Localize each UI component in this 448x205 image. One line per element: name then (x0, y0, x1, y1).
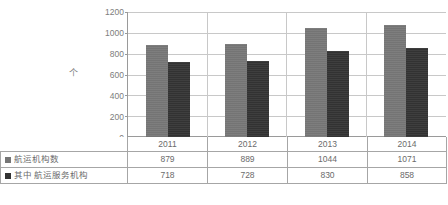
table-row-series2: 其中 航运服务机构 718 728 830 858 (1, 168, 447, 184)
y-axis-tick-labels: 1200 1000 800 600 400 200 0 (92, 12, 124, 138)
bar-series2-2012 (247, 61, 269, 137)
legend-row-header-series2: 其中 航运服务机构 (1, 168, 128, 184)
legend-label-series1: 航运机构数 (14, 154, 59, 165)
bar-texture (247, 61, 269, 137)
chart-data-table: 2011 2012 2013 2014 航运机构数 879 889 1044 1… (0, 137, 447, 184)
category-header-2013: 2013 (288, 137, 368, 152)
legend-swatch-icon-series1 (5, 157, 11, 163)
y-tick-200: 200 (92, 113, 124, 122)
bar-group-2011 (128, 12, 208, 137)
bar-series2-2013 (327, 51, 349, 137)
table-corner-cell (1, 137, 128, 152)
value-series2-2012: 728 (208, 168, 288, 184)
category-header-2011: 2011 (128, 137, 208, 152)
category-header-2012: 2012 (208, 137, 288, 152)
y-tick-1200: 1200 (92, 8, 124, 17)
bar-texture (406, 48, 428, 137)
bar-texture (146, 45, 168, 137)
category-header-2014: 2014 (368, 137, 447, 152)
bar-texture (225, 44, 247, 137)
bar-series1-2011 (146, 45, 168, 137)
table-row-series1: 航运机构数 879 889 1044 1071 (1, 152, 447, 168)
value-series2-2014: 858 (368, 168, 447, 184)
bar-texture (305, 28, 327, 137)
y-tick-800: 800 (92, 50, 124, 59)
bar-series1-2013 (305, 28, 327, 137)
bar-series1-2012 (225, 44, 247, 137)
value-series1-2011: 879 (128, 152, 208, 168)
bar-group-2013 (287, 12, 367, 137)
bar-series2-2011 (168, 62, 190, 137)
value-series2-2011: 718 (128, 168, 208, 184)
value-series1-2014: 1071 (368, 152, 447, 168)
y-axis-unit-label: 个 (58, 68, 88, 78)
y-tick-400: 400 (92, 92, 124, 101)
legend-swatch-icon-series2 (5, 173, 11, 179)
bar-texture (384, 25, 406, 137)
bar-series2-2014 (406, 48, 428, 137)
bar-groups (128, 12, 446, 137)
value-series1-2012: 889 (208, 152, 288, 168)
grouped-bar-chart-with-data-table: 个 1200 1000 800 600 400 200 0 (0, 0, 448, 205)
table-row-categories: 2011 2012 2013 2014 (1, 137, 447, 152)
y-tick-600: 600 (92, 71, 124, 80)
bar-texture (327, 51, 349, 137)
legend-label-series2: 其中 航运服务机构 (14, 170, 88, 181)
bar-series1-2014 (384, 25, 406, 137)
y-tick-1000: 1000 (92, 29, 124, 38)
bar-texture (168, 62, 190, 137)
plot-area (127, 12, 446, 137)
legend-row-header-series1: 航运机构数 (1, 152, 128, 168)
value-series1-2013: 1044 (288, 152, 368, 168)
value-series2-2013: 830 (288, 168, 368, 184)
bar-group-2012 (208, 12, 288, 137)
bar-group-2014 (367, 12, 447, 137)
